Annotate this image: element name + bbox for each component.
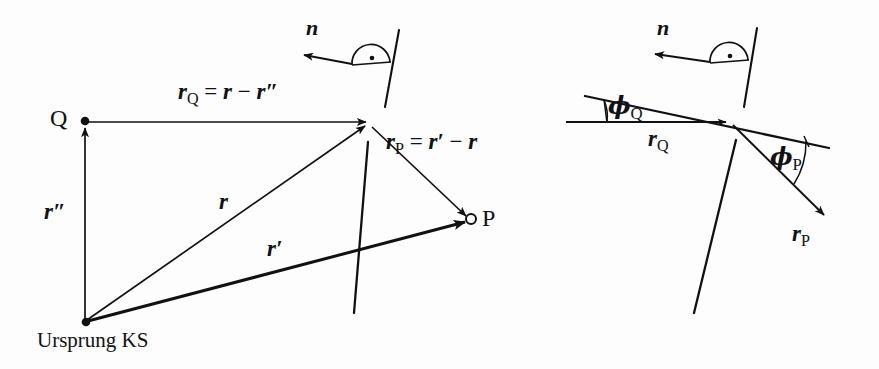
vector-r-arrow — [87, 126, 365, 320]
point-p-label: P — [482, 206, 495, 230]
origin-marker — [82, 318, 91, 327]
right-angle-base-right — [710, 60, 749, 63]
normal-vector-right — [655, 54, 710, 62]
right-angle-dot-right — [728, 54, 733, 59]
vector-r-prime-label: r′ — [267, 237, 282, 260]
formula-rq-left: rQ = r − r″ — [178, 80, 278, 107]
surface-line-lower-left — [354, 142, 368, 313]
surface-line-upper-right — [744, 28, 757, 107]
point-p-marker — [466, 214, 476, 224]
point-q-label: Q — [50, 106, 67, 130]
vector-rp-label-right: rP — [792, 222, 810, 249]
vector-rq-label-right: rQ — [648, 127, 669, 154]
angle-phi-p-label: ϕP — [770, 145, 802, 174]
vector-r-label: r — [219, 190, 228, 213]
origin-label: Ursprung KS — [37, 330, 148, 351]
surface-line-upper-left — [385, 30, 399, 107]
right-angle-base-left — [352, 62, 391, 65]
normal-vector-left — [304, 55, 352, 64]
figure-canvas: n rQ = r − r″ Q rP = r′ − r r″ r r′ P Ur… — [0, 0, 879, 369]
diagram-vector-graphics — [0, 0, 879, 369]
vector-r-double-prime-label: r″ — [44, 200, 66, 223]
angle-phi-q-label: ϕQ — [608, 94, 643, 123]
normal-label-left: n — [306, 17, 318, 39]
normal-label-right: n — [657, 17, 669, 39]
surface-line-lower-right — [694, 140, 736, 313]
formula-rp-left: rP = r′ − r — [386, 130, 477, 157]
point-q-marker — [81, 117, 90, 126]
right-angle-dot-left — [370, 56, 375, 61]
